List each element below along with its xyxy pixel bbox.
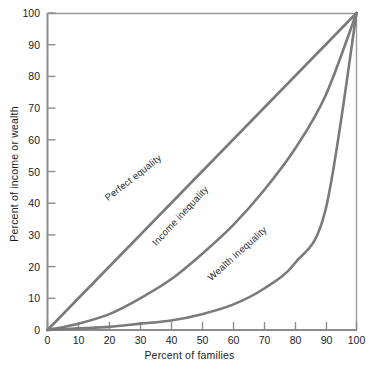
x-tick-label: 100 [342,334,372,346]
lorenz-curve-chart: 0 10 20 30 40 50 60 70 80 90 100 0 10 20… [0,0,379,369]
curve-group [48,13,357,330]
y-axis-ticks [48,13,56,330]
x-tick-label: 80 [281,334,311,346]
x-tick-label: 70 [250,334,280,346]
x-tick-label: 90 [312,334,342,346]
x-tick-label: 10 [64,334,94,346]
x-tick-label: 40 [157,334,187,346]
curve-perfect-equality [48,13,357,330]
x-tick-label: 30 [126,334,156,346]
x-tick-label: 60 [219,334,249,346]
y-tick-label: 0 [14,324,40,336]
y-tick-label: 90 [14,39,40,51]
plot-area [0,0,379,369]
x-tick-label: 50 [188,334,218,346]
x-axis-title: Percent of families [0,349,379,361]
y-tick-label: 10 [14,292,40,304]
x-tick-label: 20 [95,334,125,346]
y-axis-title: Percent of income or wealth [8,74,20,274]
y-tick-label: 100 [14,7,40,19]
